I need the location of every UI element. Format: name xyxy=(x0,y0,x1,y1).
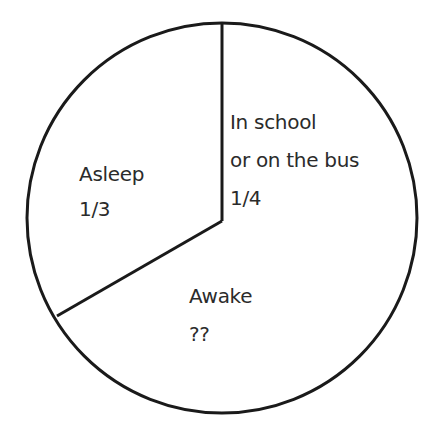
slice-label-school: In school or on the bus 1/4 xyxy=(230,103,359,217)
school-line2: or on the bus xyxy=(230,141,359,179)
pie-chart xyxy=(0,0,441,434)
slice-label-asleep: Asleep 1/3 xyxy=(79,155,144,228)
school-line1: In school xyxy=(230,103,359,141)
school-value: 1/4 xyxy=(230,179,359,217)
asleep-value: 1/3 xyxy=(79,190,144,228)
asleep-name: Asleep xyxy=(79,155,144,193)
awake-name: Awake xyxy=(189,277,252,315)
awake-value: ?? xyxy=(189,315,252,353)
slice-label-awake: Awake ?? xyxy=(189,277,252,353)
